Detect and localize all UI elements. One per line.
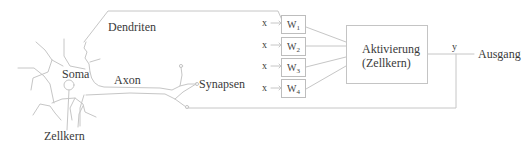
weight-activation-lines	[306, 27, 346, 89]
nucleus-shape	[64, 80, 74, 90]
weight-box-1: W1	[281, 15, 306, 34]
weight-index: 1	[296, 24, 300, 32]
input-x-4: x	[262, 83, 267, 93]
nucleus-label: Zellkern	[44, 130, 85, 142]
output-symbol: y	[452, 42, 457, 52]
activation-subtitle: (Zellkern)	[362, 56, 420, 70]
axon-label: Axon	[114, 74, 141, 86]
input-arrows	[271, 21, 281, 90]
activation-title: Aktivierung	[362, 42, 420, 56]
synapse-terminal	[179, 64, 182, 67]
synapses-label: Synapsen	[199, 78, 245, 90]
activation-label: Aktivierung (Zellkern)	[362, 42, 420, 70]
weight-index: 4	[296, 88, 300, 96]
weight-box-2: W2	[281, 37, 306, 56]
weight-box-4: W4	[281, 79, 306, 98]
output-label: Ausgang	[478, 48, 521, 60]
soma-label: Soma	[62, 68, 89, 80]
weight-box-3: W3	[281, 58, 306, 77]
weight-index: 2	[296, 46, 300, 54]
input-x-2: x	[262, 40, 267, 50]
dendrites-label: Dendriten	[108, 21, 156, 33]
dendrites-shape	[18, 39, 100, 127]
weight-index: 3	[296, 67, 300, 75]
input-x-1: x	[262, 18, 267, 28]
input-x-3: x	[262, 61, 267, 71]
nucleus-pointer	[67, 90, 69, 130]
